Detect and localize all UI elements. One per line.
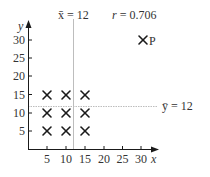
point-marker-x-icon bbox=[62, 127, 70, 135]
y-tick-label: 20 bbox=[13, 69, 25, 83]
y-tick-label: 30 bbox=[13, 33, 25, 47]
point-marker-x-icon bbox=[43, 109, 51, 117]
x-tick-label: 20 bbox=[98, 152, 110, 166]
x-tick-label: 15 bbox=[79, 152, 91, 166]
point-p-marker-x-icon bbox=[139, 36, 147, 44]
scatter-chart: 5 10 15 20 25 30 5 10 15 20 25 30 y x x̄… bbox=[0, 0, 210, 177]
data-points bbox=[43, 36, 147, 135]
y-axis-label: y bbox=[17, 19, 24, 33]
point-p-label: P bbox=[149, 34, 156, 48]
point-marker-x-icon bbox=[81, 109, 89, 117]
point-marker-x-icon bbox=[43, 127, 51, 135]
point-marker-x-icon bbox=[62, 91, 70, 99]
xbar-label: x̄ = 12 bbox=[58, 8, 89, 22]
point-marker-x-icon bbox=[43, 91, 51, 99]
x-tick-label: 10 bbox=[60, 152, 72, 166]
point-marker-x-icon bbox=[81, 127, 89, 135]
point-marker-x-icon bbox=[81, 91, 89, 99]
x-tick-label: 30 bbox=[135, 152, 147, 166]
y-tick-label: 5 bbox=[19, 124, 25, 138]
y-tick-label: 10 bbox=[13, 106, 25, 120]
r-label: r = 0.706 bbox=[112, 8, 156, 22]
y-tick-label: 15 bbox=[13, 88, 25, 102]
y-tick-label: 25 bbox=[13, 51, 25, 65]
r-value: = 0.706 bbox=[117, 8, 157, 22]
x-axis-label: x bbox=[150, 152, 157, 166]
y-axis-arrow-icon bbox=[26, 20, 32, 28]
x-tick-label: 25 bbox=[117, 152, 129, 166]
point-marker-x-icon bbox=[62, 109, 70, 117]
ybar-label: ȳ = 12 bbox=[162, 99, 193, 113]
x-tick-label: 5 bbox=[44, 152, 50, 166]
